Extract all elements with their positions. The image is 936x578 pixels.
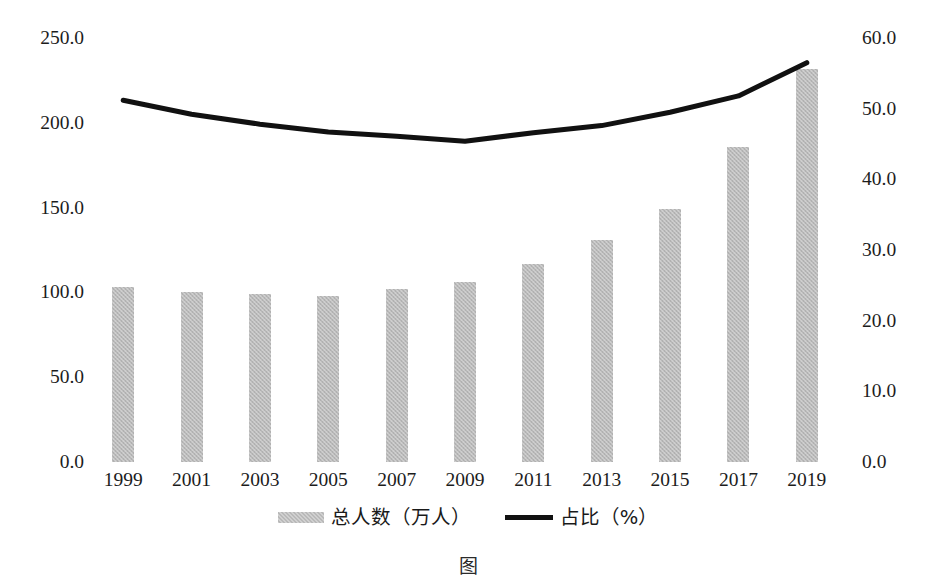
chart-legend: 总人数（万人） 占比（%） [0,508,936,528]
bar [591,240,613,462]
legend-item-total-population: 总人数（万人） [278,508,471,528]
left-y-axis: 250.0200.0150.0100.050.00.0 [0,0,84,574]
left-axis-tick: 50.0 [50,367,84,387]
x-axis-tick: 2019 [767,468,847,491]
right-axis-tick: 40.0 [862,169,896,189]
right-axis-tick: 60.0 [862,28,896,48]
bar [249,294,271,462]
bar [796,69,818,462]
bar [727,147,749,462]
bar-swatch-icon [278,512,324,523]
bar [317,296,339,462]
right-axis-tick: 30.0 [862,240,896,260]
left-axis-tick: 250.0 [40,28,84,48]
bar [386,289,408,462]
figure-caption: 图 [0,556,936,578]
bar [659,209,681,462]
bar [522,264,544,462]
left-axis-tick: 100.0 [40,282,84,302]
right-axis-tick: 0.0 [862,452,886,472]
line-swatch-icon [505,515,553,520]
plot-area [96,38,848,462]
left-axis-tick: 150.0 [40,198,84,218]
bar [181,292,203,462]
right-axis-tick: 10.0 [862,381,896,401]
legend-label-proportion: 占比（%） [560,508,659,528]
x-axis-ticks: 1999200120032005200720092011201320152017… [96,468,848,496]
bar [112,287,134,462]
right-axis-tick: 20.0 [862,311,896,331]
legend-item-proportion: 占比（%） [505,508,659,528]
right-axis-tick: 50.0 [862,99,896,119]
right-y-axis: 60.050.040.030.020.010.00.0 [862,0,936,574]
left-axis-tick: 0.0 [60,452,84,472]
left-axis-tick: 200.0 [40,113,84,133]
bar [454,282,476,462]
legend-label-total-population: 总人数（万人） [331,508,471,528]
